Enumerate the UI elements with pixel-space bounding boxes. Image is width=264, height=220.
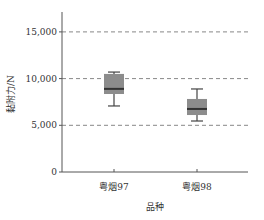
boxplot-chart: 05,00010,00015,000 粤烟97粤烟98 品种 黏附力/N [0,0,264,220]
box-1 [104,72,124,106]
box-2 [187,89,207,121]
y-tick-label: 10,000 [26,74,58,84]
x-axis-title: 品种 [146,201,164,212]
axes [62,12,248,172]
y-tick-label: 15,000 [26,27,58,37]
box-series [104,72,207,121]
iqr-box [104,74,124,94]
y-tick-label: 5,000 [31,120,57,130]
y-tick-label: 0 [51,167,57,177]
gridlines [62,32,248,125]
y-tick-labels: 05,00010,00015,000 [26,27,63,177]
y-axis-title: 黏附力/N [5,75,16,113]
x-tick-label: 粤烟97 [99,181,129,192]
x-tick-label: 粤烟98 [182,181,212,192]
iqr-box [187,99,207,115]
